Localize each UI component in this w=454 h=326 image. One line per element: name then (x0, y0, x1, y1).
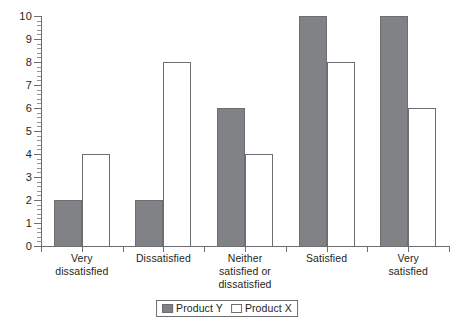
x-axis-labels: VerydissatisfiedDissatisfiedNeithersatis… (41, 252, 449, 291)
bar-group (41, 16, 123, 246)
chart-legend: Product YProduct X (156, 300, 298, 317)
y-tick-major (34, 16, 41, 17)
plot-area: 012345678910 (41, 16, 449, 246)
y-axis-tick-label: 6 (26, 103, 32, 114)
y-tick-major (34, 131, 41, 132)
y-axis-tick-label: 9 (26, 34, 32, 45)
y-axis-tick-label: 5 (26, 126, 32, 137)
y-axis-tick-label: 8 (26, 57, 32, 68)
y-tick-major (34, 85, 41, 86)
empty-white-swatch (231, 304, 242, 313)
legend-item[interactable]: Product X (231, 303, 292, 314)
bar-pair (286, 16, 368, 246)
y-tick-major (34, 62, 41, 63)
filled-gray-swatch (162, 304, 173, 313)
bar-product-x (82, 154, 110, 246)
y-axis-tick-label: 4 (26, 149, 32, 160)
x-axis-category-label: Verysatisfied (367, 252, 449, 291)
y-tick-major (34, 177, 41, 178)
y-tick-major (34, 39, 41, 40)
bar-product-y (380, 16, 408, 246)
x-tick-boundary (449, 246, 450, 252)
bar-product-x (408, 108, 436, 246)
legend-label: Product X (245, 303, 292, 314)
x-axis-category-label: Dissatisfied (123, 252, 205, 291)
bar-chart: 012345678910 VerydissatisfiedDissatisfie… (0, 0, 454, 326)
bar-product-y (217, 108, 245, 246)
y-axis-tick-label: 2 (26, 195, 32, 206)
bar-product-y (54, 200, 82, 246)
y-axis-tick-label: 3 (26, 172, 32, 183)
x-axis-category-label-line: Neither (206, 252, 284, 265)
bar-groups (41, 16, 449, 246)
bar-group (204, 16, 286, 246)
y-tick-major (34, 223, 41, 224)
y-tick-major (34, 200, 41, 201)
bar-group (367, 16, 449, 246)
bar-product-x (327, 62, 355, 246)
bar-product-y (299, 16, 327, 246)
x-axis-category-label-line: Dissatisfied (125, 252, 203, 265)
x-axis-category-label-line: satisfied (369, 265, 447, 278)
x-axis-category-label: Satisfied (286, 252, 368, 291)
y-axis-tick-label: 10 (19, 11, 32, 22)
y-axis-tick-label: 0 (26, 241, 32, 252)
y-tick-major (34, 154, 41, 155)
legend-label: Product Y (176, 303, 223, 314)
x-axis-category-label-line: Very (369, 252, 447, 265)
x-axis-category-label-line: Very (43, 252, 121, 265)
bar-pair (41, 16, 123, 246)
y-tick-major (34, 108, 41, 109)
x-axis-category-label-line: dissatisfied (206, 278, 284, 291)
bar-pair (367, 16, 449, 246)
x-axis-category-label-line: dissatisfied (43, 265, 121, 278)
y-tick-major (34, 246, 41, 247)
x-axis-category-label: Verydissatisfied (41, 252, 123, 291)
bar-product-x (245, 154, 273, 246)
bar-product-y (135, 200, 163, 246)
bar-product-x (163, 62, 191, 246)
x-axis-category-label-line: Satisfied (288, 252, 366, 265)
bar-pair (204, 16, 286, 246)
x-axis-category-label-line: satisfied or (206, 265, 284, 278)
x-axis-category-label: Neithersatisfied ordissatisfied (204, 252, 286, 291)
y-axis-tick-label: 1 (26, 218, 32, 229)
bar-group (286, 16, 368, 246)
bar-group (123, 16, 205, 246)
y-axis-tick-label: 7 (26, 80, 32, 91)
bar-pair (123, 16, 205, 246)
legend-item[interactable]: Product Y (162, 303, 223, 314)
